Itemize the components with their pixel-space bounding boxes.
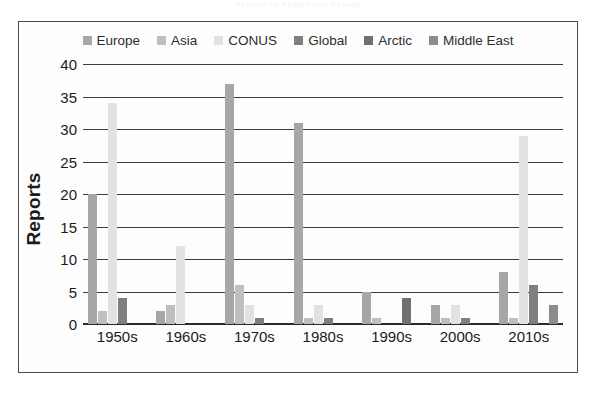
y-axis-tick-label: 25 bbox=[60, 153, 77, 170]
x-axis-tick-label: 1970s bbox=[220, 328, 289, 345]
y-axis-tick-label: 30 bbox=[60, 121, 77, 138]
legend-item-label: Global bbox=[308, 34, 347, 48]
chart-legend: EuropeAsiaCONUSGlobalArcticMiddle East bbox=[19, 34, 577, 48]
x-axis-tick-label: 1960s bbox=[152, 328, 221, 345]
x-axis-tick-labels: 1950s1960s1970s1980s1990s2000s2010s bbox=[83, 328, 563, 345]
legend-swatch-icon bbox=[214, 36, 223, 45]
y-axis-tick-label: 5 bbox=[69, 283, 77, 300]
legend-swatch-icon bbox=[364, 36, 373, 45]
plot-area: Reports 4035302520151050 1950s1960s1970s… bbox=[19, 64, 577, 372]
y-axis-title-label: Reports bbox=[23, 172, 45, 245]
x-axis-tick-label: 2010s bbox=[494, 328, 563, 345]
gridline bbox=[83, 259, 563, 260]
legend-swatch-icon bbox=[157, 36, 166, 45]
gridline bbox=[83, 292, 563, 293]
legend-item-label: Europe bbox=[97, 34, 141, 48]
gridline bbox=[83, 162, 563, 163]
y-axis-tick-label: 35 bbox=[60, 88, 77, 105]
legend-item-label: CONUS bbox=[228, 34, 277, 48]
y-axis-tick-label: 10 bbox=[60, 251, 77, 268]
legend-item-label: Asia bbox=[171, 34, 197, 48]
x-axis-tick-label: 1990s bbox=[357, 328, 426, 345]
x-axis-tick-label: 1980s bbox=[289, 328, 358, 345]
x-axis-tick-label: 2000s bbox=[426, 328, 495, 345]
legend-item-label: Arctic bbox=[378, 34, 412, 48]
legend-swatch-icon bbox=[83, 36, 92, 45]
legend-item[interactable]: Europe bbox=[83, 34, 141, 48]
y-axis-tick-labels: 4035302520151050 bbox=[45, 64, 81, 324]
legend-item[interactable]: CONUS bbox=[214, 34, 277, 48]
y-axis-title: Reports bbox=[23, 114, 45, 304]
legend-swatch-icon bbox=[429, 36, 438, 45]
chart-gridlines bbox=[83, 64, 563, 324]
gridline bbox=[83, 97, 563, 98]
y-axis-tick-label: 15 bbox=[60, 218, 77, 235]
faint-figure-caption: Reports by Region and Decade bbox=[0, 1, 596, 8]
legend-item[interactable]: Asia bbox=[157, 34, 197, 48]
y-axis-tick-label: 40 bbox=[60, 56, 77, 73]
legend-item[interactable]: Arctic bbox=[364, 34, 412, 48]
gridline bbox=[83, 64, 563, 65]
axis-baseline bbox=[83, 323, 563, 325]
gridline bbox=[83, 129, 563, 130]
legend-item[interactable]: Global bbox=[294, 34, 347, 48]
legend-item-label: Middle East bbox=[443, 34, 514, 48]
legend-swatch-icon bbox=[294, 36, 303, 45]
x-axis-tick-label: 1950s bbox=[83, 328, 152, 345]
chart-frame: EuropeAsiaCONUSGlobalArcticMiddle East R… bbox=[18, 21, 578, 373]
gridline bbox=[83, 194, 563, 195]
legend-item[interactable]: Middle East bbox=[429, 34, 514, 48]
y-axis-tick-label: 20 bbox=[60, 186, 77, 203]
y-axis-tick-label: 0 bbox=[69, 316, 77, 333]
gridline bbox=[83, 227, 563, 228]
